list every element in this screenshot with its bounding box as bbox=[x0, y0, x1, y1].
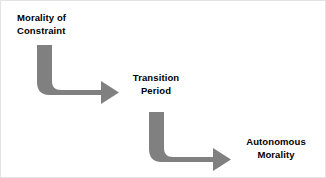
elbow-arrow-constraint-to-transition-icon bbox=[35, 43, 121, 101]
elbow-arrow-transition-to-autonomous-icon bbox=[147, 110, 233, 168]
stage-label-autonomous-morality: Autonomous Morality bbox=[235, 136, 317, 161]
stage-label-transition-period: Transition Period bbox=[121, 72, 191, 97]
diagram-canvas: Morality of Constraint Transition Period… bbox=[0, 0, 326, 178]
stage-label-morality-of-constraint: Morality of Constraint bbox=[17, 12, 66, 37]
